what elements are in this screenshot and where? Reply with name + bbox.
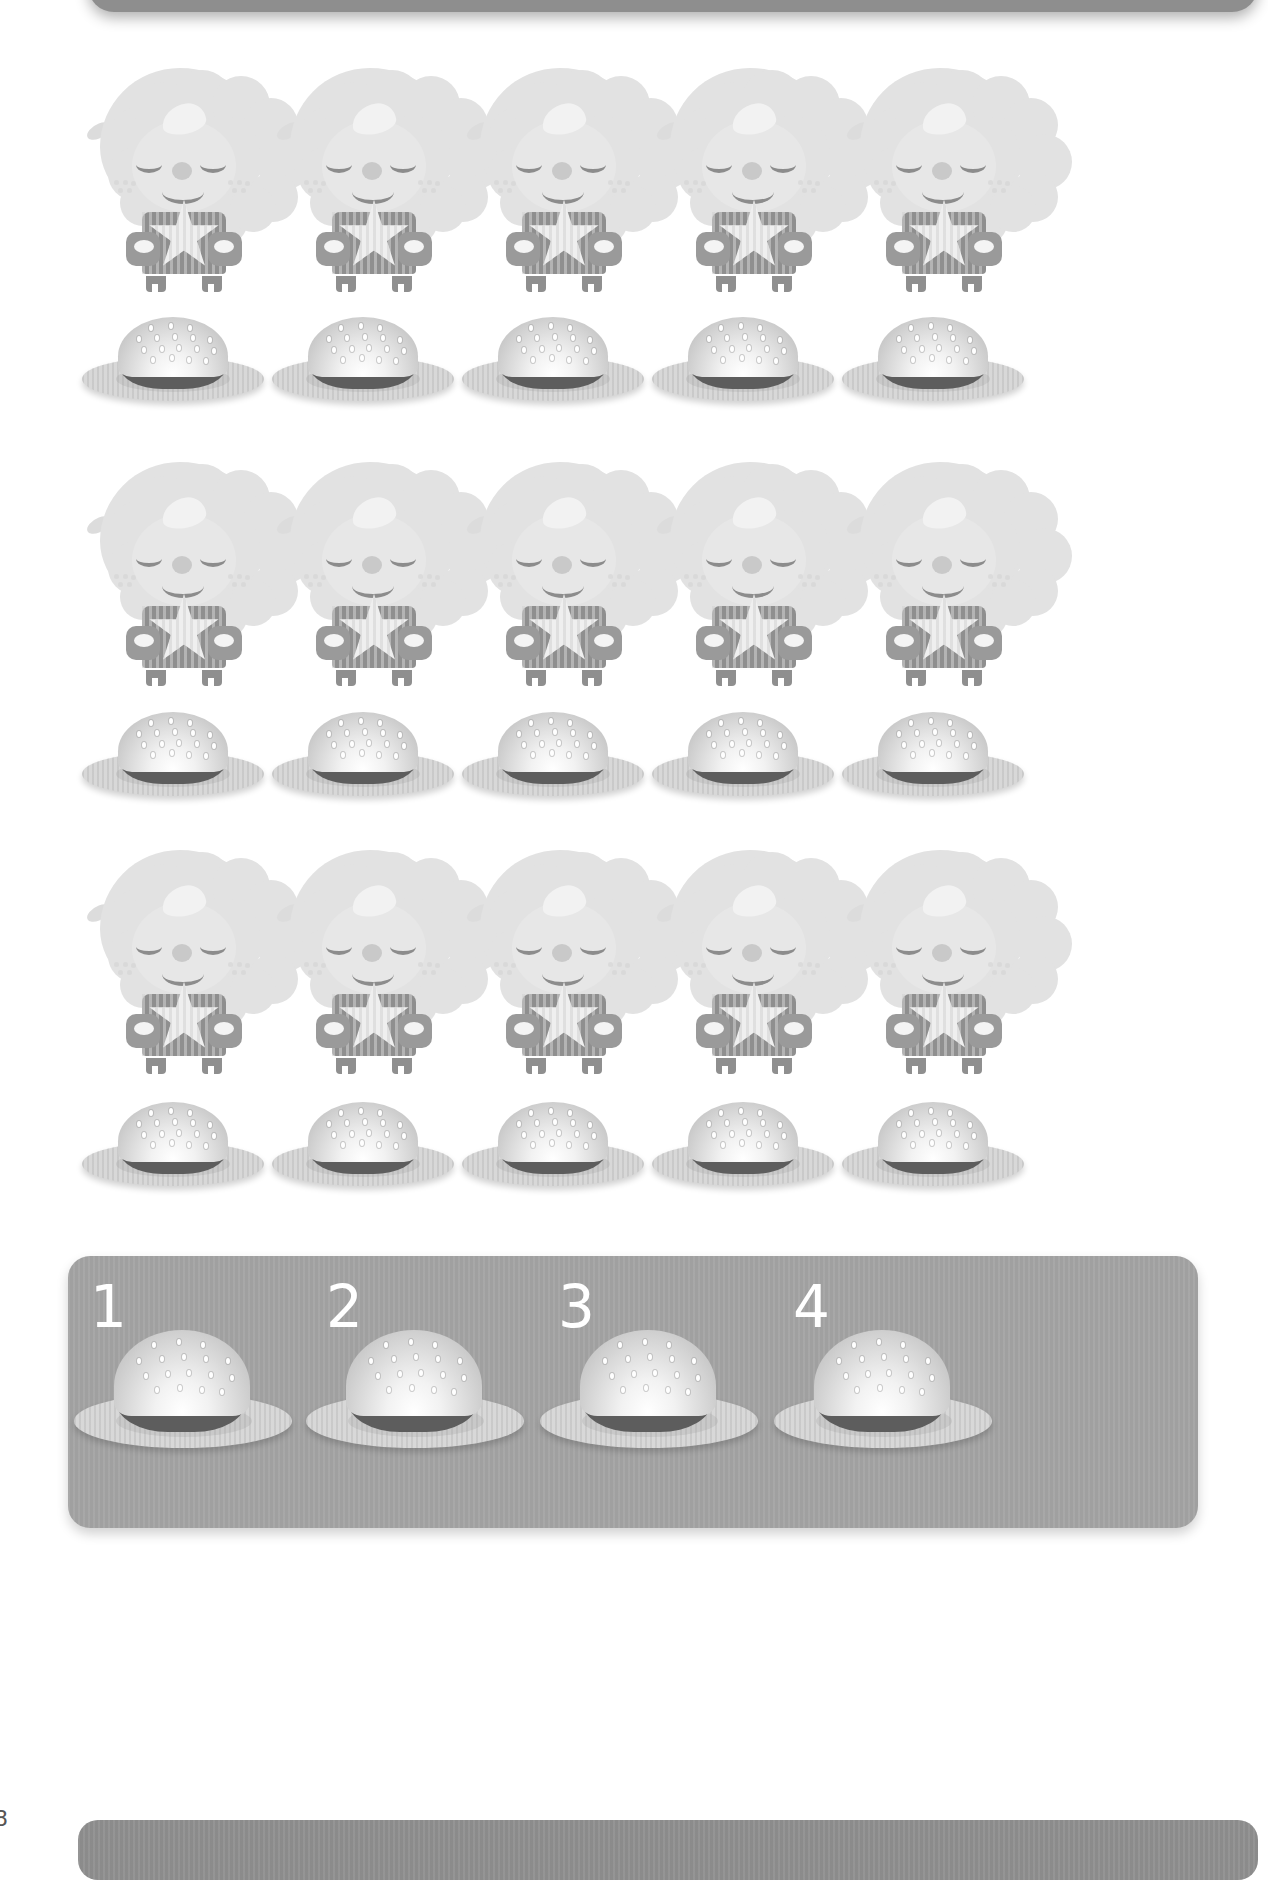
sesame-seed [951, 1120, 955, 1126]
sesame-seed [381, 1120, 385, 1126]
sheep-arm-left [696, 626, 730, 660]
hamburger-on-plate[interactable] [68, 1352, 258, 1452]
bun-seeds [308, 712, 418, 772]
sesame-seed [339, 720, 343, 726]
answer-number-3[interactable]: 3 [558, 1278, 595, 1336]
burger-cell [78, 1090, 268, 1190]
answer-number-1[interactable]: 1 [90, 1278, 127, 1336]
hamburger-on-plate[interactable] [458, 700, 648, 800]
sheep-mouth-icon [542, 574, 584, 598]
sesame-seed [384, 1342, 388, 1348]
sesame-seed [670, 1356, 674, 1362]
sheep-cell [848, 68, 1038, 283]
sheep-leg-left [336, 276, 356, 292]
sesame-seed [920, 346, 924, 352]
sheep-cheek-right [988, 962, 1010, 976]
sheep-character[interactable] [88, 68, 278, 283]
hamburger-on-plate[interactable] [648, 305, 838, 405]
sesame-seed [567, 1142, 571, 1148]
hamburger-on-plate[interactable] [78, 305, 268, 405]
sheep-arm-left [696, 232, 730, 266]
sheep-character[interactable] [848, 462, 1038, 677]
sesame-seed [402, 1133, 406, 1139]
sesame-seed [610, 1373, 614, 1379]
sheep-character[interactable] [658, 462, 848, 677]
sheep-mouth-icon [922, 574, 964, 598]
sheep-cell [468, 850, 658, 1065]
hamburger-on-plate[interactable] [534, 1352, 724, 1452]
sesame-seed [367, 1130, 371, 1136]
sesame-seed [187, 357, 191, 363]
sesame-seed [758, 325, 762, 331]
hamburger-on-plate[interactable] [78, 1090, 268, 1190]
bun-seeds [688, 317, 798, 377]
sheep-eye-left-icon [706, 550, 732, 567]
sheep-mouth-icon [352, 574, 394, 598]
sheep-character[interactable] [468, 850, 658, 1065]
answer-burger-3[interactable] [534, 1352, 764, 1502]
sheep-eye-right-icon [770, 156, 796, 173]
hamburger-on-plate[interactable] [268, 305, 458, 405]
bun-seeds [118, 1102, 228, 1162]
sesame-seed [142, 1132, 146, 1138]
sheep-character[interactable] [468, 462, 658, 677]
sheep-character[interactable] [658, 850, 848, 1065]
hamburger-on-plate[interactable] [300, 1352, 490, 1452]
hamburger-on-plate[interactable] [458, 305, 648, 405]
answer-burger-2[interactable] [300, 1352, 530, 1502]
hamburger-on-plate[interactable] [838, 700, 1028, 800]
burger-bun [114, 1330, 250, 1416]
sesame-seed [774, 1143, 778, 1149]
answer-options-panel[interactable]: 1 2 3 4 [68, 1256, 1198, 1528]
sheep-character[interactable] [88, 462, 278, 677]
hamburger-on-plate[interactable] [268, 1090, 458, 1190]
hamburger-on-plate[interactable] [78, 700, 268, 800]
sheep-hoof-right [214, 634, 234, 647]
sheep-character[interactable] [848, 850, 1038, 1065]
sheep-cell [88, 68, 278, 283]
answer-burger-1[interactable] [68, 1352, 298, 1502]
sheep-leg-left [146, 1058, 166, 1074]
sesame-seed [778, 732, 782, 738]
sesame-seed [765, 346, 769, 352]
sheep-character[interactable] [658, 68, 848, 283]
sheep-character[interactable] [278, 462, 468, 677]
sesame-seed [549, 718, 553, 724]
hamburger-on-plate[interactable] [268, 700, 458, 800]
sesame-seed [200, 1387, 204, 1393]
sheep-character[interactable] [88, 850, 278, 1065]
answer-number-2[interactable]: 2 [326, 1278, 363, 1336]
sesame-seed [212, 743, 216, 749]
hamburger-on-plate[interactable] [648, 1090, 838, 1190]
hamburger-on-plate[interactable] [768, 1352, 958, 1452]
sheep-character[interactable] [278, 850, 468, 1065]
sheep-character[interactable] [278, 68, 468, 283]
burger-cell [78, 700, 268, 800]
answer-burger-4[interactable] [768, 1352, 998, 1502]
sheep-character[interactable] [468, 68, 658, 283]
sesame-seed [517, 1121, 521, 1127]
sesame-seed [360, 355, 364, 361]
sesame-seed [144, 1373, 148, 1379]
sesame-seed [535, 335, 539, 341]
sesame-seed [930, 1375, 934, 1381]
sesame-seed [187, 752, 191, 758]
sesame-seed [160, 1131, 164, 1137]
sesame-seed [341, 357, 345, 363]
hamburger-on-plate[interactable] [458, 1090, 648, 1190]
sheep-body [888, 208, 1000, 286]
hamburger-on-plate[interactable] [648, 700, 838, 800]
sesame-seed [151, 1142, 155, 1148]
hamburger-on-plate[interactable] [838, 305, 1028, 405]
sheep-mouth-icon [922, 962, 964, 986]
sesame-seed [904, 1356, 908, 1362]
sheep-cheek-right [798, 180, 820, 194]
sesame-seed [359, 1108, 363, 1114]
sesame-seed [774, 753, 778, 759]
answer-number-4[interactable]: 4 [793, 1278, 830, 1336]
sesame-seed [592, 1133, 596, 1139]
sheep-nose-icon [552, 162, 572, 180]
sheep-nose-icon [932, 944, 952, 962]
sheep-character[interactable] [848, 68, 1038, 283]
hamburger-on-plate[interactable] [838, 1090, 1028, 1190]
